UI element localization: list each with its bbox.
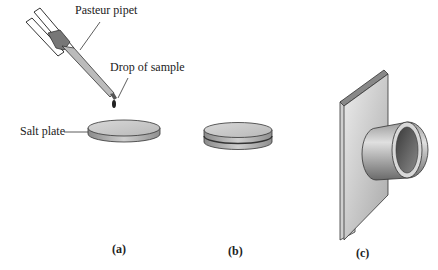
- sample-drop: [112, 100, 116, 108]
- pipet-label: Pasteur pipet: [75, 3, 137, 18]
- panel-c-caption: (c): [356, 246, 369, 261]
- salt-plate-label: Salt plate: [20, 124, 65, 139]
- panel-a-caption: (a): [112, 242, 126, 257]
- cell-holder: [340, 70, 428, 240]
- salt-plate-single: [88, 120, 160, 142]
- panel-b-caption: (b): [228, 244, 243, 259]
- pasteur-pipet: [26, 8, 117, 100]
- drop-label: Drop of sample: [110, 60, 185, 75]
- salt-plate-sandwich: [204, 123, 272, 150]
- figure: Pasteur pipet Drop of sample Salt plate …: [0, 0, 438, 270]
